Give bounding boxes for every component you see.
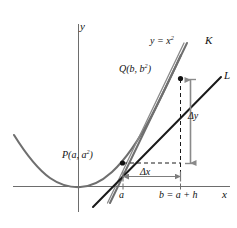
- point-q-marker: [178, 76, 183, 81]
- point-q-prefix: Q(b, b: [119, 63, 145, 74]
- parabola-curve: [14, 55, 181, 187]
- delta-y-measure: [185, 80, 196, 164]
- tangent-line-l: [93, 77, 221, 207]
- point-p-marker: [120, 160, 125, 165]
- point-q-suffix: ): [148, 63, 151, 74]
- point-q-label: Q(b, b2): [119, 64, 151, 74]
- tick-label-a: a: [119, 190, 124, 200]
- curve-equation-text: y = x: [150, 35, 171, 46]
- curve-equation-exponent: 2: [171, 34, 174, 41]
- point-p-suffix: ): [90, 149, 93, 160]
- dashed-guides: [123, 79, 181, 186]
- tick-label-b: b = a + h: [159, 190, 198, 200]
- secant-line-label: K: [205, 35, 212, 46]
- curve-equation-label: y = x2: [150, 36, 174, 46]
- point-p-prefix: P(a, a: [62, 149, 86, 160]
- tangent-line-label: L: [224, 70, 230, 81]
- x-axis-label: x: [222, 189, 227, 200]
- delta-x-label: Δx: [140, 167, 150, 177]
- delta-x-measure: [123, 172, 181, 182]
- y-axis-label: y: [80, 21, 85, 32]
- delta-y-label: Δy: [188, 111, 198, 121]
- point-p-label: P(a, a2): [62, 150, 93, 160]
- parabola-secant-tangent-figure: y x y = x2 K L Q(b, b2) P(a, a2) Δx Δy a…: [0, 0, 237, 228]
